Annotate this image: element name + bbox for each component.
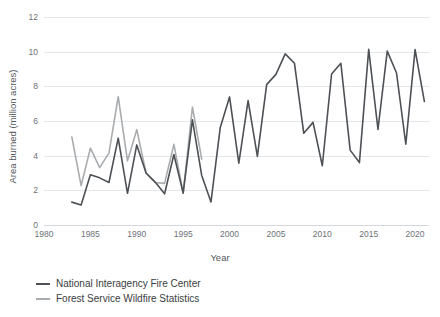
x-tick-label: 2010 — [313, 230, 332, 239]
legend-item-forest-service: Forest Service Wildfire Statistics — [36, 291, 201, 306]
x-axis-title: Year — [0, 252, 440, 263]
series-lines — [44, 17, 429, 225]
legend-item-nifc: National Interagency Fire Center — [36, 276, 201, 291]
legend-label: Forest Service Wildfire Statistics — [56, 293, 199, 304]
series-line — [72, 49, 425, 205]
x-tick-label: 1980 — [35, 230, 54, 239]
wildfire-area-burned-chart: 024681012 198019851990199520002005201020… — [0, 0, 440, 317]
y-tick-label: 0 — [12, 221, 38, 230]
x-tick-label: 2000 — [220, 230, 239, 239]
y-axis-title: Area burned (million acres) — [7, 52, 18, 202]
legend-swatch-icon — [36, 298, 50, 300]
x-tick-label: 2005 — [266, 230, 285, 239]
y-tick-label: 12 — [12, 13, 38, 22]
legend-swatch-icon — [36, 283, 50, 285]
x-tick-label: 1985 — [81, 230, 100, 239]
plot-area — [44, 17, 429, 225]
x-tick-label: 1995 — [174, 230, 193, 239]
legend-label: National Interagency Fire Center — [56, 278, 201, 289]
chart-legend: National Interagency Fire Center Forest … — [36, 276, 201, 306]
x-axis-line — [44, 225, 429, 226]
x-tick-label: 2020 — [406, 230, 425, 239]
x-tick-label: 1990 — [127, 230, 146, 239]
x-tick-label: 2015 — [359, 230, 378, 239]
